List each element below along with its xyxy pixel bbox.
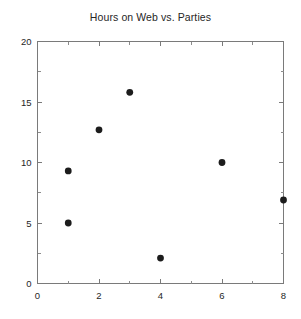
data-point	[157, 255, 164, 262]
data-point	[96, 126, 103, 133]
data-point	[126, 89, 133, 96]
scatter-chart-figure: Hours on Web vs. Parties 0246805101520	[0, 0, 301, 319]
x-tick-label: 6	[219, 290, 224, 301]
y-tick-label: 10	[21, 157, 32, 168]
plot-area: 0246805101520	[0, 0, 301, 319]
x-tick-label: 2	[96, 290, 101, 301]
plot-frame	[38, 42, 284, 284]
data-point	[65, 220, 72, 227]
y-tick-label: 20	[21, 36, 32, 47]
data-point	[219, 159, 226, 166]
data-point	[280, 197, 287, 204]
x-tick-label: 8	[281, 290, 286, 301]
y-tick-label: 0	[26, 278, 31, 289]
x-tick-label: 4	[158, 290, 163, 301]
data-point	[65, 168, 72, 175]
y-tick-label: 5	[26, 218, 31, 229]
y-tick-label: 15	[21, 97, 32, 108]
x-tick-label: 0	[35, 290, 40, 301]
